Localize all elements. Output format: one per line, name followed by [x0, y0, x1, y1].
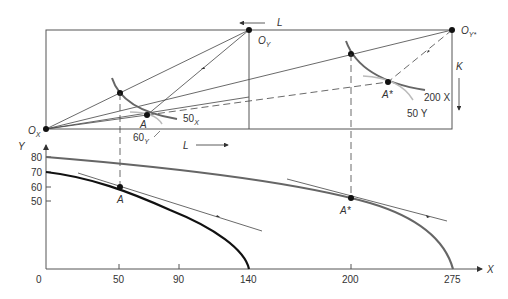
labor-label-top: L [277, 17, 283, 28]
origin-oy-label: OY [258, 35, 272, 48]
tangent-line-astar [287, 179, 447, 221]
point-astar [348, 195, 354, 201]
point-a-label: A [116, 194, 124, 205]
point-a [117, 184, 123, 190]
point-astar-label: A* [339, 205, 352, 216]
y-tick-label: 80 [31, 152, 43, 163]
point-a-label-box: A [139, 119, 147, 130]
arrow-icon [427, 50, 430, 53]
x-tick-label: 140 [240, 274, 257, 285]
x-tick-label: 200 [342, 274, 359, 285]
edgeworth-box: OX OY OY* L L K A A* 50X 60Y 200 X 50 Y [28, 17, 476, 151]
capital-label: K [456, 61, 464, 72]
y-axis-label: Y [18, 141, 26, 152]
origin-oy-point [246, 27, 252, 33]
x-axis-label: X [486, 264, 494, 275]
ppf-small-curve [46, 172, 249, 269]
isoquant-60y-label: 60Y [133, 132, 150, 145]
point-astar-label-box: A* [381, 89, 394, 100]
tangent-line-a [78, 173, 262, 231]
ppf-chart: 80 70 60 50 Y 0 50 90 140 200 275 X A A* [18, 141, 494, 285]
x-tick-label: 275 [444, 274, 461, 285]
origin-ox-label: OX [28, 125, 41, 138]
isoquant-200x-label: 200 X [424, 92, 450, 103]
ppf-large-curve [46, 157, 453, 269]
origin-label: 0 [36, 274, 42, 285]
isoquant-50y-label: 50 Y [407, 108, 428, 119]
arrow-icon [216, 215, 220, 217]
point-a-box [144, 112, 150, 118]
isoquant-50x-label: 50X [183, 113, 199, 126]
x-tick-label: 50 [113, 274, 125, 285]
edgeworth-ppf-diagram: OX OY OY* L L K A A* 50X 60Y 200 X 50 Y … [0, 0, 508, 299]
dashed-ray-to-astar [147, 82, 388, 115]
origin-ox-point [43, 126, 49, 132]
origin-oystar-point [449, 27, 455, 33]
y-tick-label: 70 [31, 167, 43, 178]
y-tick-label: 50 [31, 196, 43, 207]
origin-oystar-label: OY* [461, 25, 476, 38]
y-tick-label: 60 [31, 182, 43, 193]
point-astar-box [385, 79, 391, 85]
label-pointer [154, 131, 160, 137]
labor-label-bottom: L [183, 140, 189, 151]
x-tick-label: 90 [173, 274, 185, 285]
